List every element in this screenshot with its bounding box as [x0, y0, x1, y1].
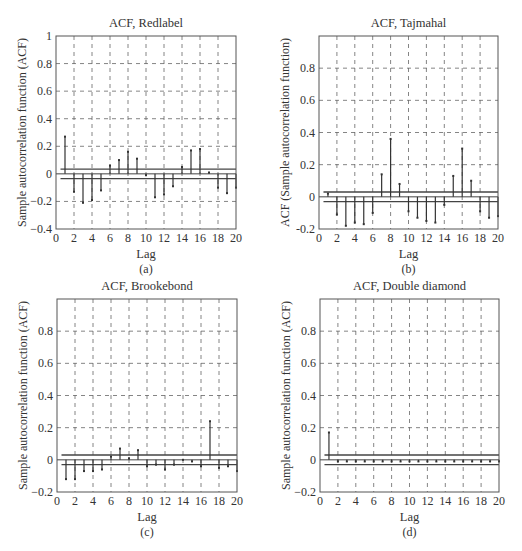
x-tick-label: 8 [126, 494, 132, 508]
x-tick-label: 18 [475, 494, 487, 508]
acf-stems [64, 136, 237, 204]
x-tick-label: 12 [159, 494, 171, 508]
y-tick-label: −0.4 [30, 222, 52, 236]
x-tick-label: 6 [108, 494, 114, 508]
panel-caption: (b) [402, 262, 416, 276]
x-tick-label: 20 [230, 231, 242, 245]
y-axis-label: Sample autocorrelation function (ACF) [279, 301, 293, 490]
x-tick-label: 0 [317, 494, 323, 508]
x-axis-label: Lag [399, 247, 419, 261]
grid-lines [320, 299, 499, 492]
y-tick-label: −0.2 [31, 485, 53, 499]
y-tick-label: 0.6 [300, 93, 315, 107]
acf-stems [328, 431, 500, 462]
y-tick-label: −0.2 [294, 485, 316, 499]
x-tick-label: 14 [176, 231, 188, 245]
y-tick-label: 0.8 [38, 324, 53, 338]
chart-title: ACF, Redlabel [109, 16, 184, 30]
acf-figure-canvas: 02468101214161820−0.4−0.200.20.40.60.81A… [0, 0, 522, 551]
chart-title: ACF, Tajmahal [371, 16, 447, 30]
x-tick-label: 16 [194, 231, 206, 245]
acf-chart-b: 02468101214161820-0.200.20.40.60.8ACF, T… [278, 16, 504, 276]
x-tick-label: 18 [474, 231, 486, 245]
x-tick-label: 0 [53, 231, 59, 245]
x-tick-label: 20 [493, 494, 505, 508]
y-tick-label: 0 [46, 167, 52, 181]
x-tick-label: 6 [371, 494, 377, 508]
y-tick-label: 0.8 [37, 57, 52, 71]
x-axis-label: Lag [400, 510, 420, 524]
x-tick-label: 10 [141, 494, 153, 508]
x-tick-label: 16 [457, 494, 469, 508]
y-tick-label: 0.4 [301, 389, 316, 403]
y-tick-label: 0.6 [301, 356, 316, 370]
chart-title: ACF, Brookebond [101, 279, 193, 293]
x-tick-label: 6 [107, 231, 113, 245]
x-tick-label: 2 [335, 494, 341, 508]
x-tick-label: 18 [212, 231, 224, 245]
x-tick-label: 8 [388, 231, 394, 245]
y-tick-label: 0.6 [37, 84, 52, 98]
x-tick-label: 2 [72, 494, 78, 508]
x-tick-label: 12 [158, 231, 170, 245]
x-tick-label: 0 [316, 231, 322, 245]
y-tick-label: 0.6 [38, 356, 53, 370]
chart-title: ACF, Double diamond [353, 279, 467, 293]
y-tick-label: 0.2 [301, 421, 316, 435]
x-tick-label: 14 [177, 494, 189, 508]
x-axis-label: Lag [136, 247, 156, 261]
x-tick-label: 10 [403, 231, 415, 245]
panel-caption: (a) [139, 262, 152, 276]
x-tick-label: 20 [231, 494, 243, 508]
x-tick-label: 2 [334, 231, 340, 245]
x-tick-label: 12 [421, 494, 433, 508]
y-tick-label: 0.4 [300, 126, 315, 140]
acf-stems [327, 138, 499, 227]
y-tick-label: 0.8 [300, 61, 315, 75]
x-tick-label: 0 [54, 494, 60, 508]
acf-chart-a: 02468101214161820−0.4−0.200.20.40.60.81A… [15, 16, 242, 276]
x-tick-label: 12 [420, 231, 432, 245]
x-axis-label: Lag [137, 510, 157, 524]
y-tick-label: 1 [46, 29, 52, 43]
x-tick-label: 4 [353, 494, 359, 508]
panel-caption: (d) [403, 525, 417, 539]
x-tick-label: 16 [195, 494, 207, 508]
x-tick-label: 6 [370, 231, 376, 245]
y-axis-label: Sample autocorrelation function (ACF) [15, 38, 29, 227]
y-tick-label: 0.2 [37, 139, 52, 153]
y-axis-label: ACF (Sample autocorrelation function) [278, 38, 292, 227]
y-tick-label: 0 [310, 453, 316, 467]
y-tick-label: 0.2 [300, 158, 315, 172]
x-tick-label: 10 [140, 231, 152, 245]
x-tick-label: 4 [89, 231, 95, 245]
x-tick-label: 2 [71, 231, 77, 245]
y-tick-label: 0 [309, 190, 315, 204]
y-tick-label: 0.8 [301, 324, 316, 338]
acf-figure: 02468101214161820−0.4−0.200.20.40.60.81A… [0, 0, 522, 551]
x-tick-label: 14 [439, 494, 451, 508]
y-tick-label: 0.2 [38, 421, 53, 435]
y-tick-label: -0.2 [296, 222, 315, 236]
x-tick-label: 8 [125, 231, 131, 245]
y-axis-label: Sample autocorrelation function (ACF) [16, 301, 30, 490]
y-tick-label: −0.2 [30, 194, 52, 208]
acf-stems [65, 420, 238, 480]
y-tick-label: 0.4 [37, 112, 52, 126]
x-tick-label: 8 [389, 494, 395, 508]
x-tick-label: 4 [90, 494, 96, 508]
acf-chart-d: 02468101214161820−0.200.20.40.60.8ACF, D… [279, 279, 505, 539]
acf-chart-c: 02468101214161820−0.200.20.40.60.8ACF, B… [16, 279, 243, 539]
x-tick-label: 14 [438, 231, 450, 245]
x-tick-label: 16 [456, 231, 468, 245]
x-tick-label: 4 [352, 231, 358, 245]
y-tick-label: 0 [47, 453, 53, 467]
x-tick-label: 10 [404, 494, 416, 508]
x-tick-label: 18 [213, 494, 225, 508]
panel-caption: (c) [140, 525, 153, 539]
y-tick-label: 0.4 [38, 389, 53, 403]
x-tick-label: 20 [492, 231, 504, 245]
